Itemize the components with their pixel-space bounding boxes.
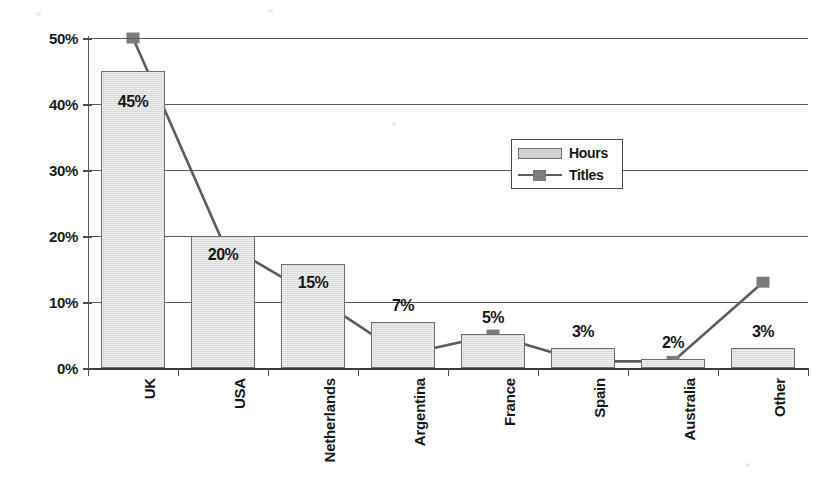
y-axis-tick-label: 10%: [49, 294, 78, 311]
x-axis-label-usa: USA: [231, 378, 248, 409]
x-axis-label-uk: UK: [141, 378, 158, 399]
bar-value-label: 5%: [482, 309, 504, 327]
x-axis-tick-mark: [808, 368, 809, 376]
x-axis-label-france: France: [501, 378, 518, 426]
x-axis-tick-mark: [448, 368, 449, 376]
x-axis-tick-mark: [718, 368, 719, 376]
grid-line: [88, 38, 808, 39]
bar-value-label: 3%: [572, 323, 594, 341]
legend-label-hours: Hours: [569, 145, 608, 161]
x-axis-label-argentina: Argentina: [411, 378, 428, 446]
bar-value-label: 15%: [298, 274, 329, 292]
scan-speck: [745, 463, 750, 467]
line-marker-other: [757, 277, 770, 288]
x-axis-label-spain: Spain: [591, 378, 608, 418]
x-axis-tick-mark: [538, 368, 539, 376]
y-axis-labels: 0%10%20%30%40%50%: [0, 0, 78, 504]
bar-uk: [101, 71, 166, 368]
grid-line: [88, 104, 808, 105]
x-axis-label-australia: Australia: [681, 378, 698, 440]
legend-item-titles: Titles: [518, 166, 618, 184]
legend-bar-swatch-icon: [518, 148, 562, 159]
bar-australia: [641, 359, 706, 368]
bar-spain: [551, 348, 616, 368]
chart-container: 0%10%20%30%40%50% UKUSANetherlandsArgent…: [0, 0, 832, 504]
bar-argentina: [371, 322, 436, 368]
bar-value-label: 7%: [392, 297, 414, 315]
bar-value-label: 3%: [752, 323, 774, 341]
legend-item-hours: Hours: [518, 144, 618, 162]
y-axis-tick-mark: [83, 38, 92, 40]
y-axis-tick-mark: [83, 302, 92, 304]
legend-line-marker-icon: [518, 169, 562, 181]
grid-line: [88, 170, 808, 171]
x-axis-label-other: Other: [771, 378, 788, 417]
legend-label-titles: Titles: [569, 167, 604, 183]
y-axis-tick-mark: [83, 236, 92, 238]
y-axis-tick-label: 30%: [49, 162, 78, 179]
plot-area: [88, 38, 808, 368]
y-axis-tick-mark: [83, 170, 92, 172]
y-axis-tick-label: 0%: [57, 360, 78, 377]
y-axis-tick-label: 20%: [49, 228, 78, 245]
x-axis-label-netherlands: Netherlands: [321, 378, 338, 463]
bar-value-label: 45%: [118, 93, 149, 111]
scan-speck: [268, 9, 273, 13]
y-axis-tick-label: 50%: [49, 30, 78, 47]
x-axis-tick-mark: [628, 368, 629, 376]
bar-france: [461, 334, 526, 368]
chart-legend: Hours Titles: [511, 139, 623, 189]
x-axis-tick-mark: [358, 368, 359, 376]
x-axis-tick-mark: [178, 368, 179, 376]
bar-other: [731, 348, 796, 368]
bar-value-label: 20%: [208, 246, 239, 264]
bar-value-label: 2%: [662, 334, 684, 352]
y-axis-tick-mark: [83, 104, 92, 106]
y-axis-tick-label: 40%: [49, 96, 78, 113]
y-axis-tick-mark: [83, 368, 92, 370]
x-axis-tick-mark: [268, 368, 269, 376]
